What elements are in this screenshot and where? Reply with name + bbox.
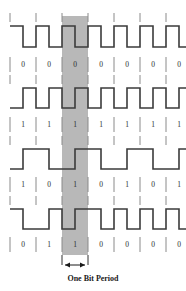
bit-label-row-2-5: 1	[151, 120, 155, 129]
waveform-row-4	[10, 209, 186, 229]
waveform-row-1	[10, 26, 186, 47]
bit-label-row-1-4: 0	[125, 60, 129, 69]
bit-label-row-3-2: 1	[73, 180, 77, 189]
bit-label-row-1-5: 0	[151, 60, 155, 69]
bit-label-row-1-0: 0	[21, 60, 25, 69]
bit-label-row-4-5: 0	[151, 240, 155, 249]
bit-label-row-3-6: 1	[177, 180, 181, 189]
waveform-row-2	[10, 88, 186, 108]
bit-label-row-2-4: 1	[125, 120, 129, 129]
bit-label-row-4-4: 0	[125, 240, 129, 249]
bit-label-row-3-4: 1	[125, 180, 129, 189]
period-arrow-head-left	[65, 262, 70, 267]
bit-label-row-3-0: 1	[21, 180, 25, 189]
bit-label-row-3-3: 0	[99, 180, 103, 189]
waveform-diagram: 0000000111111110101010110000One Bit Peri…	[0, 0, 186, 291]
bit-label-row-4-1: 1	[47, 240, 51, 249]
bit-label-row-4-2: 1	[73, 240, 77, 249]
waveform-svg: 0000000111111110101010110000One Bit Peri…	[0, 0, 186, 291]
bit-label-row-1-3: 0	[99, 60, 103, 69]
one-bit-period-caption: One Bit Period	[67, 274, 119, 283]
bit-label-row-2-2: 1	[73, 120, 77, 129]
bit-label-row-4-0: 0	[21, 240, 25, 249]
bit-label-row-2-6: 1	[177, 120, 181, 129]
bit-label-row-4-6: 0	[177, 240, 181, 249]
bit-label-row-2-1: 1	[47, 120, 51, 129]
bit-label-row-3-1: 0	[47, 180, 51, 189]
bit-label-row-3-5: 0	[151, 180, 155, 189]
bit-label-row-2-3: 1	[99, 120, 103, 129]
bit-label-row-1-1: 0	[47, 60, 51, 69]
bit-label-row-1-6: 0	[177, 60, 181, 69]
waveform-row-3	[10, 149, 186, 169]
bit-label-row-2-0: 1	[21, 120, 25, 129]
bit-label-row-4-3: 0	[99, 240, 103, 249]
period-arrow-head-right	[80, 262, 85, 267]
bit-label-row-1-2: 0	[73, 60, 77, 69]
